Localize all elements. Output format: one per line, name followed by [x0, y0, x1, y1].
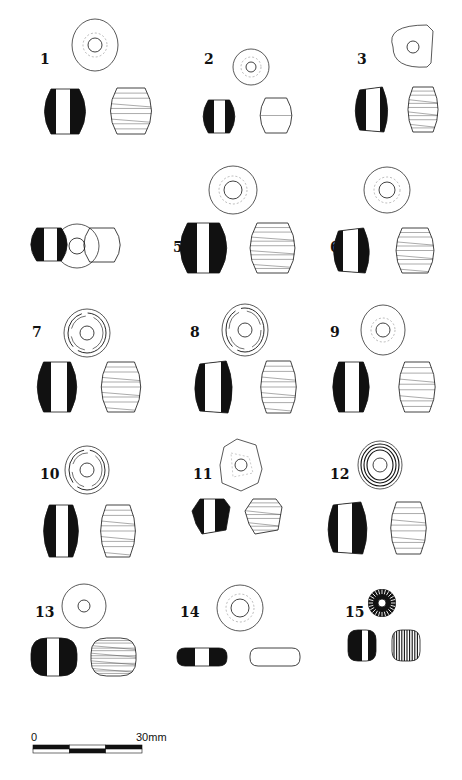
bead-top-view — [65, 446, 109, 494]
bead-top-view — [222, 304, 268, 356]
bead-11 — [192, 439, 282, 536]
bead-section-view — [333, 360, 369, 414]
bead-number-label: 8 — [190, 325, 200, 339]
bead-number-label: 1 — [40, 52, 50, 66]
bead-profile-view — [392, 228, 438, 273]
bead-top-view — [233, 49, 269, 85]
bead-section-view — [355, 85, 387, 134]
bead-top-view — [64, 309, 110, 357]
bead-top-view — [358, 441, 402, 489]
bead-6 — [334, 167, 438, 275]
bead-section-view — [192, 497, 230, 536]
bead-section-view — [177, 646, 227, 668]
bead-section-view — [180, 221, 226, 275]
bead-number-label: 2 — [204, 52, 214, 66]
bead-profile-view — [84, 228, 120, 262]
bead-profile-view — [245, 499, 282, 534]
bead-8 — [195, 304, 300, 415]
bead-profile-view — [91, 638, 136, 676]
bead-profile-view — [257, 361, 300, 413]
bead-13 — [31, 584, 136, 678]
bead-14 — [177, 585, 300, 668]
bead-number-label: 4 — [32, 240, 42, 254]
bead-number-label: 7 — [32, 325, 42, 339]
bead-profile-view — [245, 223, 300, 273]
bead-number-label: 11 — [193, 467, 212, 481]
bead-7 — [37, 309, 145, 414]
bead-number-label: 3 — [357, 52, 367, 66]
bead-2 — [203, 49, 295, 135]
bead-top-view — [392, 25, 433, 67]
bead-12 — [328, 441, 430, 556]
bead-15 — [348, 589, 420, 663]
bead-profile-view — [405, 87, 441, 132]
bead-profile-view — [250, 648, 300, 666]
bead-4 — [31, 224, 120, 268]
bead-top-view — [220, 439, 262, 491]
scale-bar — [33, 745, 142, 753]
bead-number-label: 5 — [173, 240, 183, 254]
bead-number-label: 10 — [40, 467, 59, 481]
bead-profile-view — [395, 362, 439, 412]
bead-profile-view — [106, 88, 156, 134]
bead-top-view — [62, 584, 106, 628]
bead-section-view — [203, 98, 235, 135]
bead-profile-view — [97, 505, 139, 557]
bead-section-view — [37, 360, 76, 414]
bead-top-view — [368, 589, 396, 617]
bead-number-label: 14 — [180, 605, 199, 619]
bead-section-view — [31, 636, 77, 678]
bead-section-view — [328, 500, 367, 556]
bead-number-label: 15 — [345, 605, 364, 619]
scale-end-label: 30mm — [136, 732, 167, 743]
bead-profile-view — [392, 630, 420, 661]
bead-9 — [333, 305, 439, 414]
bead-top-view — [364, 167, 410, 213]
bead-section-view — [45, 87, 86, 136]
bead-section-view — [195, 359, 232, 415]
bead-profile-view — [257, 98, 295, 133]
bead-profile-view — [97, 362, 145, 412]
bead-number-label: 9 — [330, 325, 340, 339]
bead-plate: 123456789101112131415 0 30mm — [0, 0, 462, 780]
bead-top-view — [72, 19, 118, 71]
bead-3 — [355, 25, 441, 134]
bead-section-view — [44, 503, 79, 559]
bead-number-label: 13 — [35, 605, 54, 619]
bead-5 — [180, 166, 300, 275]
bead-top-view — [361, 305, 405, 355]
bead-10 — [44, 446, 139, 559]
bead-number-label: 6 — [330, 240, 340, 254]
bead-1 — [45, 19, 157, 136]
bead-profile-view — [387, 502, 430, 554]
bead-top-view — [217, 585, 263, 631]
scale-start-label: 0 — [31, 732, 37, 743]
bead-section-view — [348, 628, 376, 663]
bead-drawings — [0, 0, 462, 780]
bead-top-view — [209, 166, 257, 214]
bead-number-label: 12 — [330, 467, 349, 481]
